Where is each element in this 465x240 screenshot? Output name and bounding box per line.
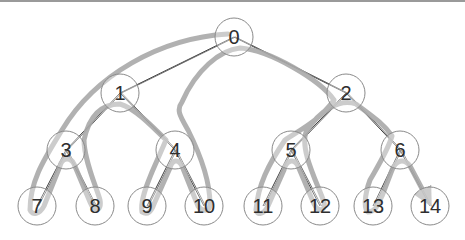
tree-node-13: 13 <box>354 187 392 225</box>
tree-node-5: 5 <box>272 131 310 169</box>
node-label: 14 <box>419 195 441 217</box>
node-label: 10 <box>193 195 215 217</box>
tree-node-9: 9 <box>128 187 166 225</box>
tree-node-10: 10 <box>185 187 223 225</box>
tree-node-12: 12 <box>301 187 339 225</box>
tree-node-7: 7 <box>18 187 56 225</box>
tree-node-2: 2 <box>327 74 365 112</box>
node-label: 11 <box>253 195 274 217</box>
tree-node-11: 11 <box>244 187 282 225</box>
traversal-path <box>30 34 428 213</box>
tree-node-6: 6 <box>381 131 419 169</box>
tree-node-0: 0 <box>215 18 253 56</box>
node-label: 4 <box>169 139 180 161</box>
node-label: 5 <box>285 139 296 161</box>
node-label: 8 <box>89 195 100 217</box>
node-label: 6 <box>394 139 405 161</box>
node-label: 0 <box>228 26 239 48</box>
tree-node-1: 1 <box>101 74 139 112</box>
tree-node-8: 8 <box>76 187 114 225</box>
node-label: 7 <box>31 195 42 217</box>
node-label: 9 <box>141 195 152 217</box>
tree-node-4: 4 <box>156 131 194 169</box>
tree-node-3: 3 <box>47 131 85 169</box>
tree-node-14: 14 <box>411 187 449 225</box>
node-label: 1 <box>114 82 125 104</box>
node-label: 2 <box>340 82 351 104</box>
tree-diagram: 01234567891011121314 <box>0 0 465 240</box>
tree-nodes: 01234567891011121314 <box>18 18 449 225</box>
node-label: 13 <box>362 195 384 217</box>
node-label: 3 <box>60 139 71 161</box>
node-label: 12 <box>309 195 331 217</box>
